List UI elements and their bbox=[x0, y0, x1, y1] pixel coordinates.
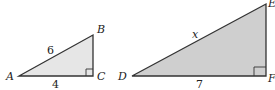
vertex-label-e: E bbox=[267, 0, 275, 10]
similar-triangles-diagram: A B C 6 4 D E F x 7 bbox=[0, 0, 275, 90]
side-label-ac: 4 bbox=[52, 78, 59, 90]
vertex-label-c: C bbox=[97, 70, 106, 83]
vertex-label-b: B bbox=[96, 23, 105, 36]
side-label-de: x bbox=[192, 28, 199, 41]
triangle-def: D E F x 7 bbox=[117, 0, 275, 90]
vertex-label-f: F bbox=[267, 72, 275, 85]
side-label-ab: 6 bbox=[47, 44, 54, 57]
triangle-abc-shape bbox=[19, 35, 93, 76]
triangle-def-shape bbox=[132, 4, 266, 76]
vertex-label-d: D bbox=[117, 70, 127, 83]
vertex-label-a: A bbox=[5, 70, 14, 83]
triangle-abc: A B C 6 4 bbox=[5, 23, 106, 90]
side-label-df: 7 bbox=[196, 78, 203, 90]
